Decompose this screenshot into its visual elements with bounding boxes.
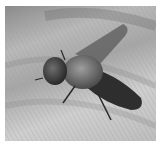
fly-photo: [5, 6, 156, 141]
fly-illustration: [5, 6, 156, 141]
